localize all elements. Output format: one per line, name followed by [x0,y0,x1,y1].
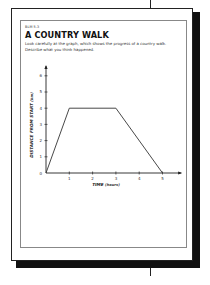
x-tick-label: 2 [91,176,94,181]
y-tick-label: 6 [39,73,42,78]
x-axis-arrow-icon [178,171,182,174]
y-tick-label: 4 [39,106,42,111]
distance-time-chart: 123456012345 DISTANCE FROM START (km) TI… [0,0,210,285]
x-tick-label: 0 [39,171,42,176]
y-axis-label: DISTANCE FROM START (km) [29,92,34,158]
x-axis-label: TIME (hours) [92,182,120,187]
x-tick-label: 3 [115,176,118,181]
chart-ticks: 123456012345 [39,73,164,180]
y-tick-label: 5 [39,89,42,94]
y-axis-unit: (km) [30,92,34,102]
y-axis-arrow-icon [44,65,47,69]
x-axis-unit: (hours) [105,183,120,187]
y-tick-label: 1 [39,154,42,159]
x-tick-label: 1 [68,176,71,181]
y-tick-label: 3 [39,122,42,127]
x-tick-label: 4 [138,176,141,181]
y-tick-label: 2 [39,138,42,143]
walk-series-line [46,108,163,173]
x-tick-label: 5 [161,176,164,181]
